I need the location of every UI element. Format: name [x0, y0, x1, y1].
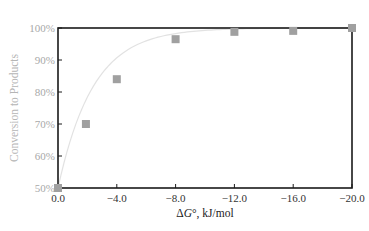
data-point-marker	[172, 35, 180, 43]
fit-curve-line	[58, 28, 352, 188]
y-tick-label: 70%	[35, 118, 55, 130]
y-tick-label: 80%	[35, 86, 55, 98]
data-point-marker	[54, 184, 62, 192]
data-point-marker	[348, 24, 356, 32]
data-point-marker	[230, 28, 238, 36]
x-tick-label: −4.0	[107, 192, 127, 204]
data-point-marker	[82, 120, 90, 128]
x-tick-label: −16.0	[280, 192, 306, 204]
x-tick-label: −20.0	[339, 192, 365, 204]
x-tick-label: −12.0	[222, 192, 248, 204]
y-tick-label: 50%	[35, 182, 55, 194]
conversion-chart: 0.0−4.0−8.0−12.0−16.0−20.0 50%60%70%80%9…	[0, 0, 369, 231]
y-tick-label: 90%	[35, 54, 55, 66]
y-axis-ticks: 50%60%70%80%90%100%	[29, 22, 62, 194]
x-axis-ticks: 0.0−4.0−8.0−12.0−16.0−20.0	[51, 184, 365, 204]
data-markers	[54, 24, 356, 192]
plot-axes	[58, 28, 352, 188]
y-tick-label: 100%	[29, 22, 55, 34]
x-tick-label: −8.0	[166, 192, 186, 204]
plot-frame	[58, 28, 352, 188]
data-point-marker	[289, 27, 297, 35]
data-point-marker	[113, 75, 121, 83]
fit-curve	[58, 28, 352, 188]
y-axis-title: Conversion to Products	[8, 53, 20, 161]
y-tick-label: 60%	[35, 150, 55, 162]
x-axis-title: ΔG°, kJ/mol	[176, 207, 233, 220]
